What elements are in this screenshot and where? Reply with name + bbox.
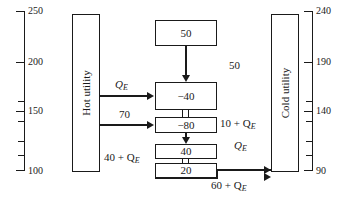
- figure-canvas: 250 200 150 100 240 190 140 90 Hot utili…: [0, 0, 345, 207]
- right-axis-label-140: 140: [316, 106, 331, 116]
- flow-label-cascade-mid: 10 + QE: [220, 118, 256, 131]
- interval-box-3: −80: [155, 117, 217, 133]
- hot-feed-arrow-1-head: [147, 92, 154, 100]
- cascade-arrow-3-head: [182, 137, 190, 144]
- cold-utility-column: Cold utility: [271, 14, 299, 172]
- left-axis-label-150: 150: [28, 106, 43, 116]
- flow-label-to-cold-text: 60 + Q: [211, 179, 242, 191]
- interval-box-5-value: 20: [181, 165, 192, 176]
- interval-box-3-value: −80: [177, 120, 194, 131]
- right-axis-tick-minor-3: [306, 141, 313, 142]
- cold-discharge-arrow-head-2: [264, 173, 271, 181]
- right-axis-tick-minor-1: [306, 101, 313, 102]
- hot-feed-arrow-1-shaft: [100, 95, 148, 97]
- flow-label-to-cold-subscript: E: [242, 184, 247, 193]
- flow-label-hot-to-interval2: QE: [115, 79, 128, 92]
- right-axis-tick-90: [304, 170, 313, 171]
- left-axis-tick-minor-1: [18, 101, 25, 102]
- left-axis-tick-minor-4: [18, 155, 25, 156]
- left-axis-tick-minor-2: [18, 121, 25, 122]
- cold-utility-label: Cold utility: [279, 68, 291, 118]
- right-axis-label-90: 90: [316, 166, 326, 176]
- flow-label-left-bottom: 40 + QE: [104, 152, 140, 165]
- interval-box-2: −40: [155, 82, 217, 110]
- flow-label-left-bottom-subscript: E: [135, 156, 140, 165]
- interval-box-5: 20: [155, 163, 217, 178]
- flow-label-hot-to-interval2-subscript: E: [123, 83, 128, 92]
- interval-box-1-value: 50: [181, 28, 192, 39]
- interval-box-5-base-extension: [155, 178, 217, 179]
- interval-box-1: 50: [155, 20, 217, 46]
- cascade-arrow-1-shaft: [185, 46, 187, 75]
- left-axis-label-200: 200: [28, 57, 43, 67]
- left-axis-tick-100: [16, 170, 25, 171]
- right-axis-tick-190: [304, 62, 313, 63]
- right-axis-tick-240: [304, 11, 313, 12]
- discharge-riser: [217, 170, 218, 179]
- right-axis-tick-140: [304, 111, 313, 112]
- left-axis-tick-200: [16, 62, 25, 63]
- left-axis-tick-150: [16, 111, 25, 112]
- right-axis-tick-minor-2: [306, 121, 313, 122]
- hot-utility-column: Hot utility: [72, 14, 100, 172]
- flow-label-cascade-lower: QE: [234, 140, 247, 153]
- flow-label-hot-to-interval3: 70: [119, 109, 130, 120]
- right-axis-label-190: 190: [316, 57, 331, 67]
- interval-box-4-value: 40: [181, 146, 192, 157]
- hot-feed-arrow-2-head: [147, 121, 154, 129]
- flow-label-cascade-top: 50: [229, 60, 240, 71]
- flow-label-to-cold: 60 + QE: [211, 180, 247, 193]
- cascade-connector-4: [182, 159, 189, 163]
- cascade-connector-2: [182, 110, 189, 117]
- hot-utility-label: Hot utility: [80, 70, 92, 116]
- right-axis-label-240: 240: [316, 6, 331, 16]
- left-axis-tick-250: [16, 11, 25, 12]
- flow-label-cascade-mid-text: 10 + Q: [220, 117, 251, 129]
- flow-label-cascade-lower-symbol: Q: [234, 139, 242, 151]
- interval-box-2-value: −40: [177, 91, 194, 102]
- cold-discharge-arrow-shaft: [217, 169, 271, 171]
- left-axis-label-250: 250: [28, 6, 43, 16]
- left-axis-label-100: 100: [28, 166, 43, 176]
- hot-feed-arrow-2-shaft: [100, 124, 148, 126]
- interval-box-4: 40: [155, 144, 217, 159]
- flow-label-cascade-mid-subscript: E: [251, 122, 256, 131]
- right-axis-tick-minor-4: [306, 155, 313, 156]
- flow-label-cascade-lower-subscript: E: [242, 144, 247, 153]
- flow-label-hot-to-interval2-symbol: Q: [115, 78, 123, 90]
- left-axis-spine: [24, 11, 25, 171]
- left-axis-tick-minor-3: [18, 141, 25, 142]
- flow-label-left-bottom-text: 40 + Q: [104, 151, 135, 163]
- cascade-arrow-1-head: [182, 75, 190, 82]
- right-axis-spine: [312, 11, 313, 171]
